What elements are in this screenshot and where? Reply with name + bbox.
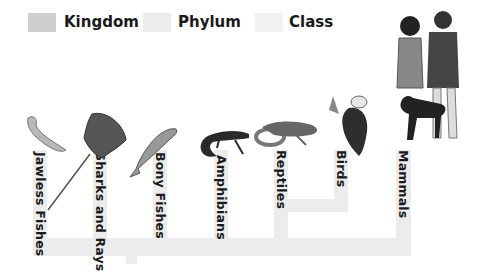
lizard-snake-icon [252, 115, 324, 155]
legend-swatch-class [255, 13, 283, 32]
root-stem [126, 250, 137, 264]
legend-swatch-kingdom [28, 13, 56, 32]
label-reptiles: Reptiles [274, 150, 289, 209]
label-mammals: Mammals [396, 150, 411, 218]
label-amphibians: Amphibians [214, 155, 229, 240]
legend-label-kingdom: Kingdom [64, 13, 139, 32]
salamander-icon [195, 128, 253, 162]
legend-swatch-phylum [143, 13, 171, 32]
people-dog-icon [395, 8, 470, 153]
legend-label-class: Class [289, 13, 333, 32]
stingray-icon [40, 110, 130, 220]
legend-label-phylum: Phylum [178, 13, 241, 32]
eagle-icon [325, 92, 375, 160]
main-trunk-bar [33, 238, 411, 256]
bracket-reptiles-birds [288, 199, 348, 212]
trout-icon [128, 125, 180, 180]
